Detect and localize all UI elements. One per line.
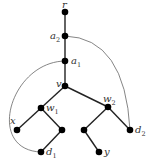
label-y: y (103, 146, 110, 157)
node-n1 (59, 127, 66, 134)
label-d1: d1 (46, 146, 57, 160)
node-d1 (38, 149, 45, 156)
edge-w2-n2 (84, 107, 108, 130)
node-n2 (81, 127, 88, 134)
label-a2: a2 (50, 30, 60, 44)
node-v (62, 83, 69, 90)
arc-layer (9, 36, 130, 152)
tree-diagram: ra2a1vw1w2xd1yd2 (0, 0, 150, 162)
node-layer (14, 9, 134, 156)
label-d2: d2 (135, 124, 146, 138)
node-w1 (38, 105, 45, 112)
node-a2 (62, 33, 69, 40)
node-w2 (105, 104, 112, 111)
edge-layer (17, 12, 130, 152)
edge-n2-y (84, 130, 99, 152)
label-r: r (62, 0, 68, 10)
arc-a1-d1 (9, 61, 65, 152)
label-x: x (10, 115, 16, 126)
label-w1: w1 (46, 102, 59, 116)
label-layer: ra2a1vw1w2xd1yd2 (10, 0, 146, 160)
diagram-svg: ra2a1vw1w2xd1yd2 (0, 0, 150, 162)
label-a1: a1 (71, 55, 81, 69)
node-y (96, 149, 103, 156)
edge-w2-d2 (108, 107, 130, 130)
node-x (14, 127, 21, 134)
edge-v-w2 (65, 86, 108, 107)
arc-a2-d2 (65, 36, 130, 130)
node-d2 (127, 127, 134, 134)
node-a1 (62, 58, 69, 65)
edge-w1-x (17, 108, 41, 130)
label-v: v (56, 78, 62, 89)
